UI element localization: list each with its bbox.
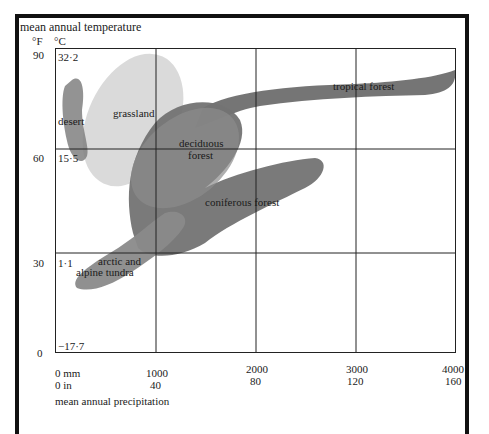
label-desert: desert [58,116,84,127]
x-tick-in-160: 160 [445,375,462,387]
unit-fahrenheit: °F [32,35,43,47]
y-tick-c-neg17: −17·7 [58,340,84,352]
y-tick-f-60: 60 [33,152,44,164]
x-tick-mm-4000: 4000 [442,363,464,375]
label-tropical: tropical forest [333,81,394,92]
x-tick-mm-1000: 1000 [146,367,168,379]
unit-celsius: °C [54,35,66,47]
x-tick-mm-0: 0 mm [55,367,80,379]
x-tick-mm-3000: 3000 [346,363,368,375]
y-tick-f-0: 0 [37,347,43,359]
x-axis-title: mean annual precipitation [55,395,169,407]
y-axis-title: mean annual temperature [20,21,141,33]
x-tick-mm-2000: 2000 [246,363,268,375]
x-tick-in-0: 0 in [55,379,72,391]
label-grassland: grassland [113,108,155,119]
x-tick-in-40: 40 [150,379,161,391]
y-tick-c-1: 1·1 [58,257,73,269]
y-tick-f-30: 30 [33,257,44,269]
y-tick-f-90: 90 [33,49,44,61]
x-tick-in-80: 80 [250,375,261,387]
plot-area: 32·2 15·5 1·1 −17·7 desert grassland dec… [55,48,456,353]
label-deciduous-2: forest [188,150,213,161]
y-tick-c-32: 32·2 [58,51,78,63]
y-tick-c-15: 15·5 [58,152,78,164]
x-tick-in-120: 120 [347,375,364,387]
label-tundra-2: alpine tundra [76,267,134,278]
label-coniferous: coniferous forest [205,197,279,208]
label-deciduous-1: deciduous [179,138,224,149]
